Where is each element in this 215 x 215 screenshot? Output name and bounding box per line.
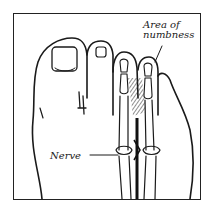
fourth-toe-bone (144, 63, 152, 99)
second-toe-nail (96, 47, 106, 57)
area-of-numbness-label: Area of numbness (143, 20, 203, 40)
metatarsal-third (119, 96, 128, 150)
nerve-label: Nerve (50, 151, 81, 161)
numbness-area (128, 78, 146, 116)
foot-outline-left (32, 38, 87, 199)
joint-third (116, 146, 132, 154)
foot-outline-right (158, 73, 193, 199)
area-leader-line (155, 46, 162, 62)
metatarsal-fourth (145, 100, 154, 150)
third-toe-bone (120, 59, 128, 94)
second-toe-outline (87, 41, 113, 115)
big-toe-nail (52, 47, 77, 71)
